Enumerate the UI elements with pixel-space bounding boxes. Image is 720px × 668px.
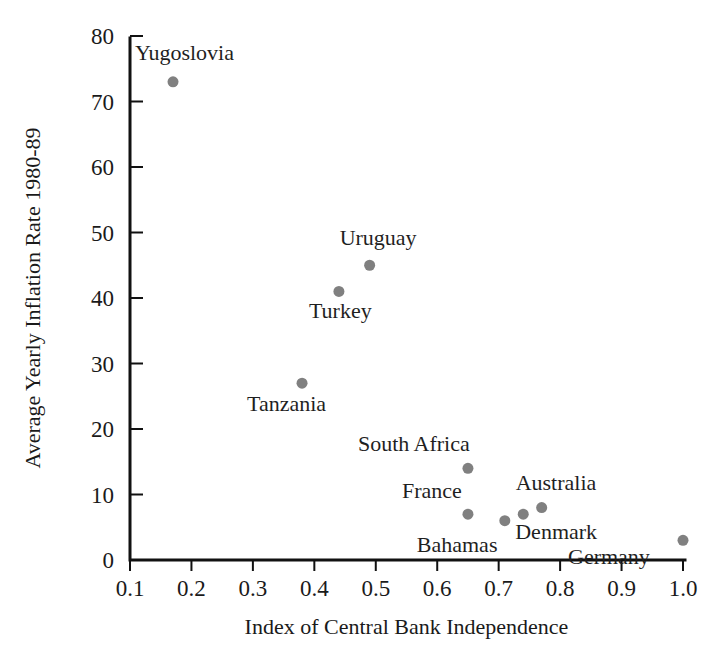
y-tick-label: 70 — [91, 90, 114, 115]
y-axis-title: Average Yearly Inflation Rate 1980-89 — [20, 127, 45, 468]
x-tick-label: 0.9 — [607, 576, 636, 601]
x-tick-label: 1.0 — [669, 576, 698, 601]
data-point-label: Germany — [568, 544, 650, 569]
data-point-label: Tanzania — [247, 391, 326, 416]
x-tick-label: 0.4 — [300, 576, 329, 601]
data-point-label: France — [402, 478, 462, 503]
x-tick-label: 0.5 — [361, 576, 390, 601]
data-point-marker — [462, 463, 473, 474]
x-tick-label: 0.2 — [177, 576, 206, 601]
data-point-label: Uruguay — [340, 225, 417, 250]
y-axis-ticks: 01020304050607080 — [91, 24, 143, 573]
data-point-label: Australia — [516, 470, 597, 495]
data-point-marker — [168, 76, 179, 87]
y-tick-label: 80 — [91, 24, 114, 49]
data-point-marker — [297, 378, 308, 389]
data-point-label: Yugoslovia — [135, 40, 234, 65]
data-point-marker — [536, 502, 547, 513]
plot-canvas: 0.10.20.30.40.50.60.70.80.91.00102030405… — [0, 0, 720, 668]
data-point-marker — [518, 509, 529, 520]
data-point-marker — [678, 535, 689, 546]
x-tick-label: 0.3 — [239, 576, 268, 601]
data-point-marker — [462, 509, 473, 520]
y-tick-label: 0 — [103, 548, 115, 573]
y-tick-label: 20 — [91, 417, 114, 442]
data-point-label: Turkey — [309, 298, 372, 323]
data-point-marker — [499, 515, 510, 526]
y-tick-label: 60 — [91, 155, 114, 180]
x-tick-label: 0.8 — [546, 576, 575, 601]
data-points-group: YugosloviaUruguayTurkeyTanzaniaSouth Afr… — [135, 40, 688, 570]
x-axis-title: Index of Central Bank Independence — [245, 614, 569, 639]
data-point-label: Bahamas — [417, 532, 498, 557]
data-point-marker — [333, 286, 344, 297]
data-point-label: Denmark — [515, 519, 597, 544]
x-tick-label: 0.7 — [484, 576, 513, 601]
data-point-marker — [364, 260, 375, 271]
scatter-plot-figure: 0.10.20.30.40.50.60.70.80.91.00102030405… — [0, 0, 720, 668]
data-point-label: South Africa — [358, 431, 470, 456]
x-tick-label: 0.1 — [116, 576, 145, 601]
y-tick-label: 40 — [91, 286, 114, 311]
y-tick-label: 50 — [91, 221, 114, 246]
y-tick-label: 10 — [91, 483, 114, 508]
y-tick-label: 30 — [91, 352, 114, 377]
x-tick-label: 0.6 — [423, 576, 452, 601]
